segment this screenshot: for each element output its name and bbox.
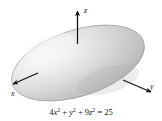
ellipsoid-figure: z x y 4x2 + y2 + 9z2 = 25 [0,0,162,121]
eq-rhs: 25 [104,107,113,117]
y-axis-label: y [149,82,154,91]
figure-canvas: z x y 4x2 + y2 + 9z2 = 25 [0,0,162,121]
x-axis-label: x [10,89,15,98]
